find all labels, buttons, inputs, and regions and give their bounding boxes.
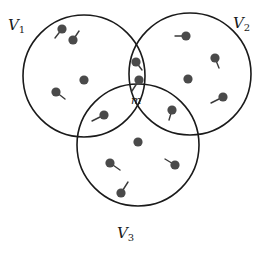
node (116, 182, 128, 198)
node (183, 74, 192, 83)
node-dot (105, 158, 114, 167)
node (175, 31, 191, 40)
node-dot (99, 110, 108, 119)
node (132, 75, 144, 91)
node-dot (134, 75, 143, 84)
node-dot (57, 24, 66, 33)
node-dot (51, 87, 60, 96)
node (211, 92, 228, 103)
set-circles (23, 13, 251, 206)
node (105, 158, 120, 170)
node-dot (170, 160, 179, 169)
node (165, 159, 180, 170)
node-dot (181, 31, 190, 40)
node (55, 24, 67, 38)
node (68, 31, 79, 45)
venn-diagram: V1V2V3m (0, 0, 261, 256)
node (51, 87, 65, 99)
set-label-v1: V1 (8, 16, 25, 35)
node (133, 137, 142, 146)
node (131, 57, 142, 70)
node (92, 110, 109, 121)
node-dot (167, 105, 176, 114)
node-dot (131, 57, 140, 66)
center-node-label: m (131, 94, 141, 107)
set-labels: V1V2V3m (8, 14, 250, 243)
set-label-v2: V2 (233, 14, 250, 33)
node-dot (79, 75, 88, 84)
node-dot (116, 188, 125, 197)
node (167, 105, 176, 120)
node-dot (133, 137, 142, 146)
node-dot (183, 74, 192, 83)
node-dot (218, 92, 227, 101)
set-label-v3: V3 (117, 224, 134, 243)
node-dot (68, 35, 77, 44)
node-dot (210, 53, 219, 62)
node (210, 53, 219, 68)
node (79, 75, 88, 84)
